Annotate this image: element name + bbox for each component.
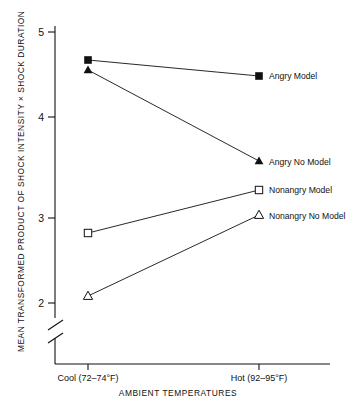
marker-filled-square-cool [84, 56, 92, 64]
series-nonangry-model-line [88, 190, 259, 233]
y-tick-label-4: 4 [38, 111, 44, 123]
y-tick-label-5: 5 [38, 26, 44, 38]
y-tick-label-3: 3 [38, 212, 44, 224]
chart-figure: MEAN TRANSFORMED PRODUCT OF SHOCK INTENS… [0, 0, 357, 408]
marker-filled-triangle-hot [255, 156, 264, 164]
marker-open-square-hot [255, 186, 262, 193]
x-tick-label-cool: Cool (72–74°F) [57, 373, 118, 383]
series-nonangry-no-model-line [88, 215, 259, 296]
series-nonangry-no-model: Nonangry No Model [83, 210, 345, 299]
y-axis-title: MEAN TRANSFORMED PRODUCT OF SHOCK INTENS… [16, 11, 26, 352]
y-tick-label-2: 2 [38, 297, 44, 309]
series-label-angry-no-model: Angry No Model [269, 157, 331, 167]
y-tick-group: 5 4 3 2 [38, 26, 55, 309]
series-angry-no-model-line [88, 70, 259, 161]
series-label-angry-model: Angry Model [269, 71, 317, 81]
marker-open-square-cool [84, 229, 91, 236]
marker-open-triangle-hot [254, 210, 263, 218]
series-angry-model-line [88, 60, 259, 76]
x-axis-title: AMBIENT TEMPERATURES [119, 388, 238, 398]
x-tick-label-hot: Hot (92–95°F) [231, 373, 288, 383]
marker-open-triangle-cool [83, 291, 92, 299]
series-angry-model: Angry Model [84, 56, 317, 81]
axis-break-upper [48, 320, 63, 330]
chart-svg: MEAN TRANSFORMED PRODUCT OF SHOCK INTENS… [0, 0, 357, 408]
marker-filled-square-hot [255, 72, 263, 80]
marker-filled-triangle-cool [84, 65, 93, 73]
series-label-nonangry-model: Nonangry Model [269, 185, 332, 195]
series-label-nonangry-no-model: Nonangry No Model [269, 211, 346, 221]
